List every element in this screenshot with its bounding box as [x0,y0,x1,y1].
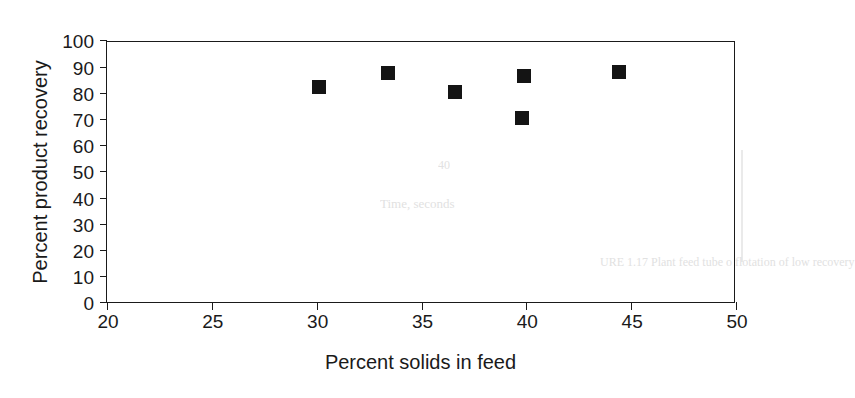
y-tick-label-90: 90 [73,58,94,77]
x-tick-35: 35 [422,302,423,310]
data-point-2 [448,85,462,99]
x-tick-label-40: 40 [517,312,538,331]
x-axis-title: Percent solids in feed [106,352,735,372]
artifact-vertical-rule [741,150,743,262]
x-tick-label-30: 30 [307,312,328,331]
data-point-3 [515,111,529,125]
y-tick-100: 100 [100,40,107,41]
y-tick-50: 50 [100,171,107,172]
y-axis-title: Percent product recovery [30,41,60,303]
y-tick-label-10: 10 [73,268,94,287]
y-tick-label-60: 60 [73,137,94,156]
data-point-4 [517,69,531,83]
y-tick-30: 30 [100,224,107,225]
x-tick-40: 40 [526,302,527,310]
y-tick-label-70: 70 [73,111,94,130]
x-tick-25: 25 [212,302,213,310]
y-tick-label-50: 50 [73,163,94,182]
y-tick-label-40: 40 [73,189,94,208]
y-tick-10: 10 [100,276,107,277]
y-tick-40: 40 [100,198,107,199]
y-tick-80: 80 [100,93,107,94]
x-tick-label-25: 25 [202,312,223,331]
y-tick-label-30: 30 [73,215,94,234]
y-tick-label-80: 80 [73,84,94,103]
x-tick-label-20: 20 [97,312,118,331]
x-tick-30: 30 [317,302,318,310]
y-tick-70: 70 [100,119,107,120]
y-tick-0: 0 [100,302,107,303]
x-tick-20: 20 [107,302,108,310]
y-tick-label-20: 20 [73,242,94,261]
x-tick-label-50: 50 [726,312,747,331]
y-tick-20: 20 [100,250,107,251]
data-point-1 [381,66,395,80]
x-tick-label-35: 35 [412,312,433,331]
x-tick-label-45: 45 [622,312,643,331]
plot-area: 0 10 20 30 40 50 60 70 80 90 100 [106,41,735,303]
x-tick-45: 45 [631,302,632,310]
x-tick-50: 50 [736,302,737,310]
y-tick-label-100: 100 [62,32,94,51]
data-point-5 [612,65,626,79]
y-tick-90: 90 [100,67,107,68]
y-tick-60: 60 [100,145,107,146]
data-point-0 [312,80,326,94]
y-tick-label-0: 0 [83,294,94,313]
